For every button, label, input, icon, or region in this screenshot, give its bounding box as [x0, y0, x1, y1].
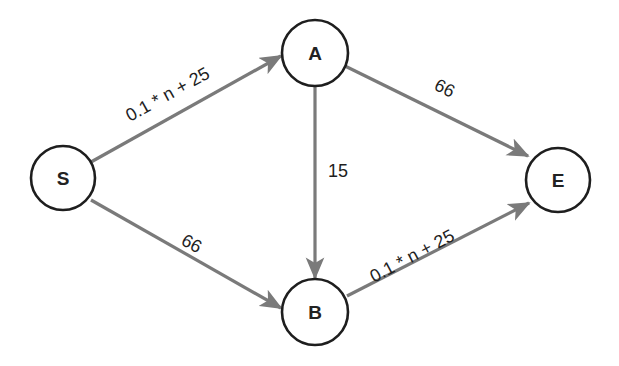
edge-line-s-b [91, 200, 281, 308]
edge-s-to-b: 66 [91, 200, 281, 308]
node-a: A [282, 20, 348, 86]
node-label-e: E [552, 170, 565, 191]
node-s: S [31, 146, 95, 210]
node-e: E [526, 148, 590, 212]
network-diagram: 0.1 * n + 25 66 15 66 0.1 * n + 25 S A B… [0, 0, 619, 366]
node-label-b: B [308, 302, 322, 323]
edge-line-a-e [345, 66, 528, 156]
edge-label-s-a: 0.1 * n + 25 [122, 63, 213, 125]
edge-a-to-e: 66 [345, 66, 528, 156]
edge-b-to-e: 0.1 * n + 25 [347, 203, 529, 296]
edge-label-a-e: 66 [431, 75, 458, 102]
edge-a-to-b: 15 [315, 86, 348, 278]
edge-s-to-a: 0.1 * n + 25 [91, 56, 281, 162]
edge-label-a-b: 15 [328, 161, 348, 181]
node-b: B [282, 279, 348, 345]
node-label-s: S [57, 168, 70, 189]
node-label-a: A [308, 43, 322, 64]
edge-label-b-e: 0.1 * n + 25 [366, 225, 457, 286]
